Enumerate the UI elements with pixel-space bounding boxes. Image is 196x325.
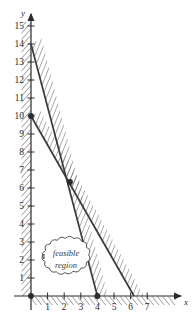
x-tick-label: 3 bbox=[78, 302, 83, 312]
y-tick-label: 2 bbox=[19, 255, 24, 265]
y-tick-label: 10 bbox=[15, 111, 25, 121]
vertex-y-intercept bbox=[28, 113, 34, 119]
x-tick-label: 6 bbox=[128, 302, 133, 312]
vertex-origin bbox=[28, 293, 34, 299]
graph-canvas: feasible region 1 2 3 4 5 6 7 1 2 3 4 5 … bbox=[0, 0, 196, 325]
x-tick-label: 7 bbox=[145, 302, 150, 312]
x-tick-label: 2 bbox=[62, 302, 67, 312]
y-tick-label: 11 bbox=[15, 93, 24, 103]
y-tick-label: 13 bbox=[15, 57, 25, 67]
y-tick-label: 14 bbox=[15, 39, 25, 49]
y-tick-label: 9 bbox=[19, 129, 24, 139]
y-tick-label: 8 bbox=[19, 147, 24, 157]
feasible-label-line1: feasible bbox=[53, 248, 80, 258]
y-tick-label: 15 bbox=[15, 21, 25, 31]
vertex-intersection bbox=[67, 179, 73, 185]
vertex-x-intercept bbox=[95, 293, 101, 299]
y-tick-label: 4 bbox=[19, 219, 24, 229]
y-tick-label: 1 bbox=[19, 273, 24, 283]
hatch-band-x-axis bbox=[31, 297, 176, 306]
y-tick-labels: 1 2 3 4 5 6 7 8 9 10 11 12 13 14 15 bbox=[15, 21, 25, 283]
x-tick-label: 5 bbox=[112, 302, 117, 312]
constraint-line-shallow bbox=[31, 116, 134, 296]
y-axis-label: y bbox=[20, 8, 25, 18]
y-tick-label: 12 bbox=[15, 75, 25, 85]
y-tick-label: 7 bbox=[19, 165, 24, 175]
y-tick-label: 5 bbox=[19, 201, 24, 211]
feasible-region-callout: feasible region bbox=[42, 236, 90, 274]
x-tick-label: 1 bbox=[45, 302, 50, 312]
x-axis-label: x bbox=[183, 297, 188, 307]
linear-programming-figure: feasible region 1 2 3 4 5 6 7 1 2 3 4 5 … bbox=[0, 0, 196, 325]
y-tick-label: 3 bbox=[19, 237, 24, 247]
x-tick-label: 4 bbox=[95, 302, 100, 312]
y-tick-label: 6 bbox=[19, 183, 24, 193]
feasible-label-line2: region bbox=[55, 260, 77, 270]
